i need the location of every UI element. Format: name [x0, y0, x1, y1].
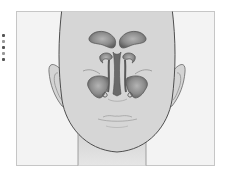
nasal-septum: [113, 52, 121, 96]
sinus-anatomy-illustration: [0, 0, 225, 179]
